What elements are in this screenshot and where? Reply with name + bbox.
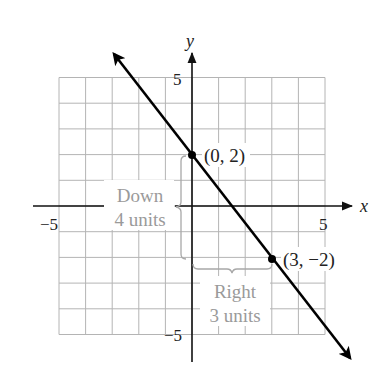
point-3-neg2-label: (3, −2) bbox=[283, 249, 335, 271]
y-tick-5: 5 bbox=[173, 70, 182, 89]
coordinate-plane: y x 5 −5 −5 5 Down 4 units Right 3 units… bbox=[0, 0, 388, 392]
x-tick-5: 5 bbox=[319, 215, 328, 234]
down-label-line1: Down bbox=[117, 185, 164, 206]
down-label-line2: 4 units bbox=[114, 209, 165, 230]
point-3-neg2 bbox=[268, 255, 276, 263]
x-axis-label: x bbox=[359, 196, 368, 216]
y-tick-neg5: −5 bbox=[164, 326, 182, 345]
point-0-2 bbox=[188, 151, 196, 159]
x-tick-neg5: −5 bbox=[40, 215, 58, 234]
right-label-line1: Right bbox=[214, 281, 257, 302]
right-label-line2: 3 units bbox=[209, 305, 260, 326]
vertical-brace bbox=[176, 156, 186, 259]
y-axis-label: y bbox=[184, 31, 194, 51]
point-0-2-label: (0, 2) bbox=[204, 145, 245, 167]
horizontal-brace bbox=[193, 264, 272, 273]
